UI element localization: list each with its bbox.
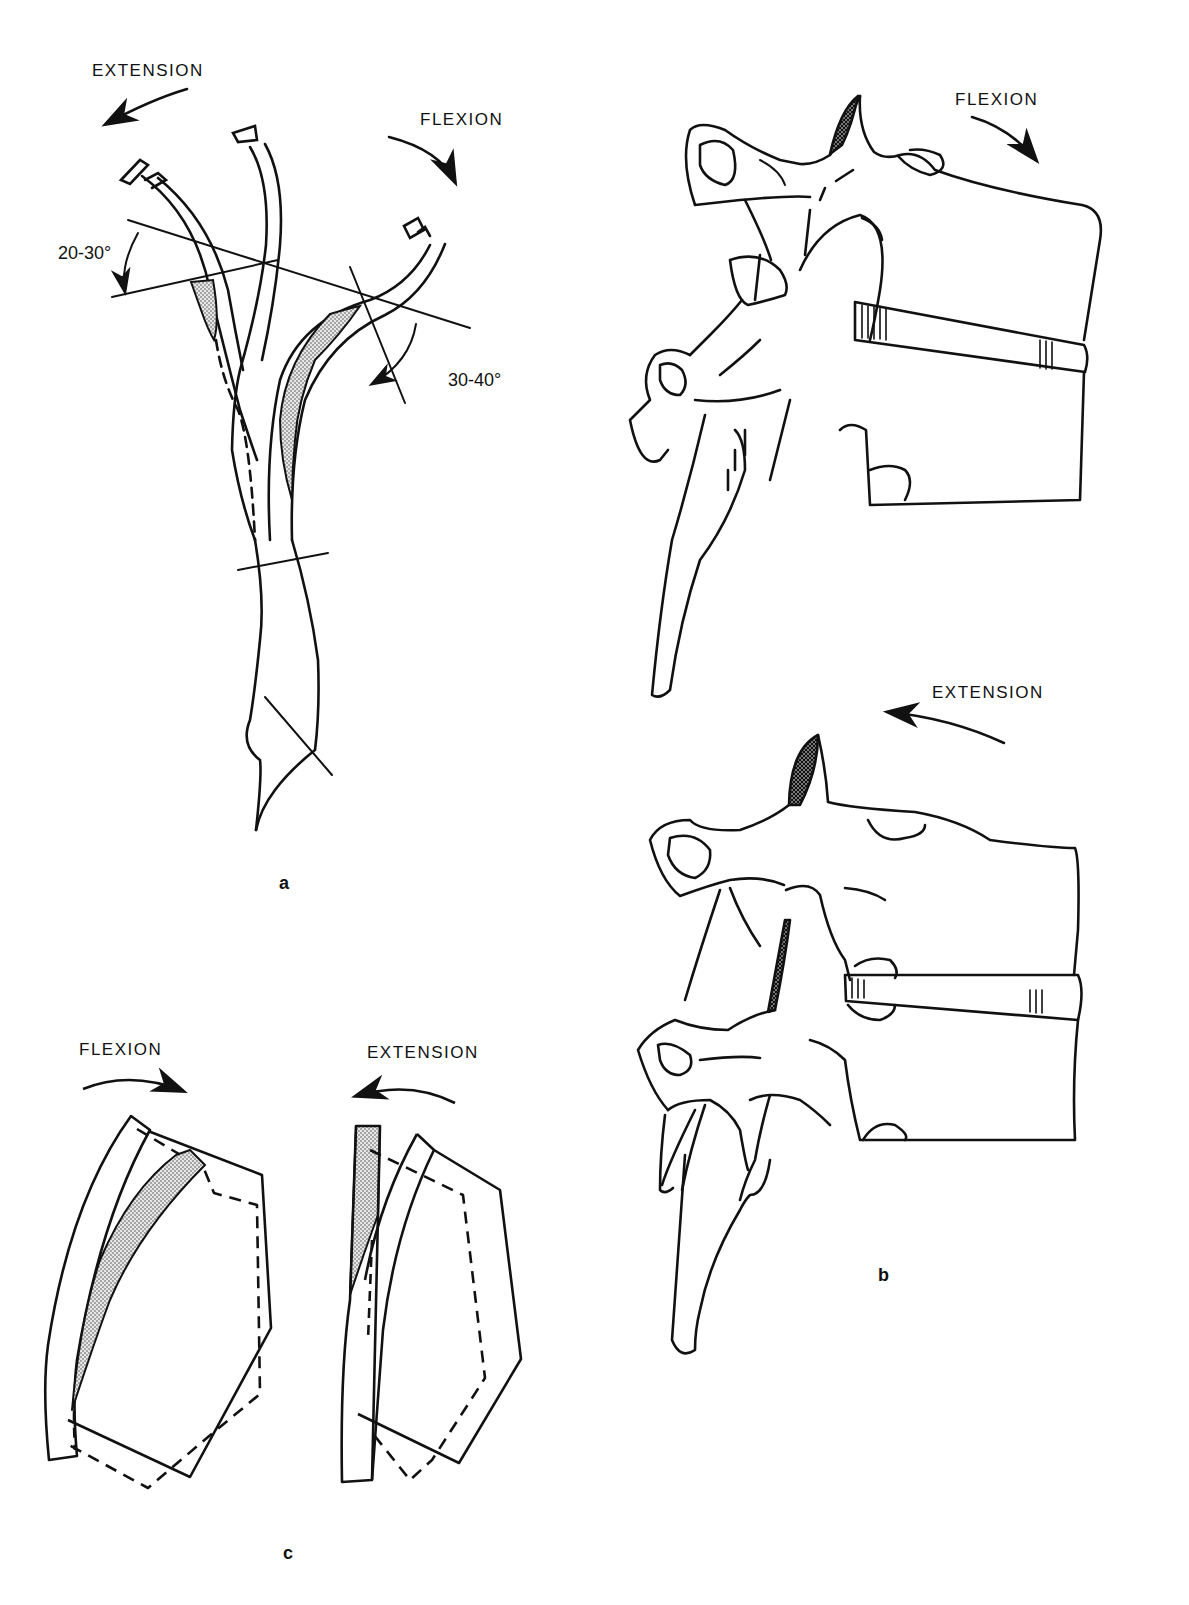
- panel-c-flexion-schematic: [45, 1080, 271, 1488]
- panel-b-flexion-vertebrae: [630, 96, 1101, 697]
- panel-c-extension-label: EXTENSION: [367, 1043, 479, 1063]
- extension-arrow-icon: [106, 89, 187, 124]
- panel-b-extension-label: EXTENSION: [932, 683, 1044, 703]
- extension-arrow-icon: [888, 712, 1004, 743]
- ref-line-3: [350, 267, 405, 403]
- extension-shaded-area: [191, 280, 217, 340]
- angle-arc-20-30: [124, 233, 138, 292]
- panel-b-flexion-label: FLEXION: [955, 90, 1038, 110]
- hatched-spinous-ligament: [789, 735, 818, 805]
- panel-c-extension-schematic: [342, 1089, 521, 1482]
- hatched-spinous-ligament: [830, 96, 858, 154]
- panel-a-flexion-label: FLEXION: [420, 110, 503, 130]
- flexion-shaded-area: [280, 306, 360, 500]
- neutral-spine: [232, 126, 281, 540]
- angle-label-extension: 20-30°: [58, 243, 111, 264]
- panel-a-drawing: [106, 89, 470, 830]
- extension-spine: [121, 160, 257, 460]
- panel-b-label: b: [878, 1265, 889, 1286]
- figure-canvas: [0, 0, 1189, 1605]
- flexion-arrow-icon: [83, 1080, 183, 1091]
- panel-a-extension-label: EXTENSION: [92, 61, 204, 81]
- extension-arrow-icon: [356, 1089, 455, 1103]
- panel-c-flexion-label: FLEXION: [79, 1040, 162, 1060]
- panel-c-label: c: [283, 1543, 293, 1564]
- panel-b-extension-vertebrae: [638, 712, 1082, 1353]
- angle-label-flexion: 30-40°: [448, 370, 501, 391]
- ref-line-1: [128, 220, 470, 328]
- flexion-arrow-icon: [972, 117, 1036, 160]
- hatched-interspinous-contact: [768, 920, 790, 1012]
- ref-line-4: [238, 553, 328, 570]
- flexion-arrow-icon: [389, 137, 455, 182]
- intervertebral-disc: [845, 975, 1082, 1020]
- panel-a-label: a: [279, 873, 289, 894]
- flexion-shaded-area: [72, 1150, 205, 1410]
